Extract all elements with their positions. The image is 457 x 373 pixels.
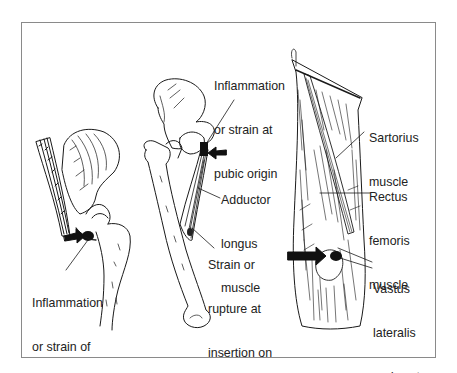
adductor-illustration xyxy=(144,79,214,328)
label-vastus: Vastus lateralis and vastus medialis mus… xyxy=(373,253,433,373)
label-hip-flexor: Inflammation or strain of the hip flexor xyxy=(32,267,103,373)
leader-line-hip-flexor xyxy=(66,240,88,270)
label-insertion-femur: Strain or rupture at insertion on femur xyxy=(208,229,272,373)
thigh-illustration xyxy=(291,49,365,329)
